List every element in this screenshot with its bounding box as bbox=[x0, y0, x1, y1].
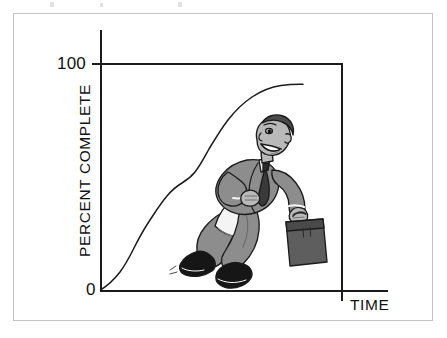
far-shoe bbox=[180, 251, 216, 276]
tie-knot bbox=[263, 163, 269, 171]
eye-pupil bbox=[268, 130, 271, 133]
near-shoe bbox=[216, 263, 252, 289]
ear bbox=[285, 134, 291, 143]
left-hand bbox=[241, 190, 260, 206]
businessman-illustration bbox=[0, 0, 447, 338]
figure-canvas: 100 0 PERCENT COMPLETE TIME bbox=[0, 0, 447, 338]
